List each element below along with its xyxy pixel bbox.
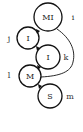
- node-i-lower: I: [36, 45, 60, 69]
- node-label: I: [26, 34, 29, 43]
- node-label: M: [26, 72, 34, 81]
- side-label-k: k: [64, 53, 69, 62]
- node-i-upper: I: [17, 27, 39, 49]
- tree-diagram: MI I I M S i j k l m: [0, 0, 83, 132]
- node-s: S: [38, 84, 62, 108]
- side-label-l: l: [8, 71, 11, 80]
- node-label: MI: [42, 13, 53, 22]
- node-label: S: [47, 92, 52, 101]
- node-mi: MI: [34, 3, 62, 31]
- node-label: I: [46, 53, 49, 62]
- side-label-j: j: [7, 34, 10, 43]
- side-label-m: m: [66, 92, 74, 101]
- side-label-i: i: [72, 13, 75, 22]
